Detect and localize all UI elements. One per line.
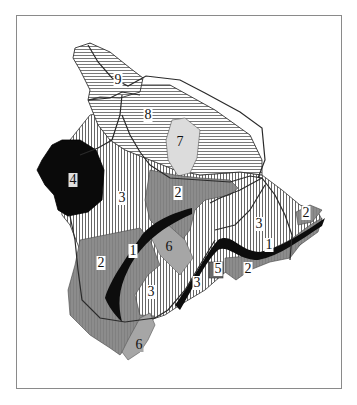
zone-label-9: 9: [114, 73, 123, 87]
zone-label-8: 8: [144, 108, 153, 122]
zone-label-7: 7: [176, 135, 185, 149]
zone-9-area: [73, 43, 143, 100]
zone-label-3-east: 3: [255, 217, 264, 231]
zone-label-2-center: 2: [174, 186, 183, 200]
zone-label-1-southwest: 1: [129, 244, 138, 258]
hawaii-hazard-map: [0, 0, 357, 405]
zone-label-6-south: 6: [135, 338, 144, 352]
zone-label-2-northeast: 2: [302, 206, 311, 220]
zone-label-2-east: 2: [244, 262, 253, 276]
zone-label-4: 4: [69, 173, 78, 187]
zone-label-5: 5: [214, 262, 223, 276]
zone-label-3-south: 3: [147, 285, 156, 299]
zone-label-1-east: 1: [265, 238, 274, 252]
zone-label-3-southeast: 3: [193, 276, 202, 290]
zone-label-6-center: 6: [165, 240, 174, 254]
zone-label-3-west: 3: [118, 191, 127, 205]
zone-label-2-southwest: 2: [97, 256, 106, 270]
